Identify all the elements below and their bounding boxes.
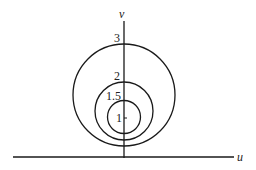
v-axis-label: v	[119, 7, 125, 21]
circle-label-2: 2	[114, 69, 120, 83]
point-label-1: 1	[116, 111, 122, 125]
u-axis-label: u	[237, 150, 243, 164]
circle-label-1-5: 1.5	[106, 89, 121, 103]
circle-label-3: 3	[114, 31, 120, 45]
diagram-canvas: v u 3 2 1.5 1	[0, 0, 256, 170]
